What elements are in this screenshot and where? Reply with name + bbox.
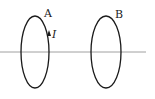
- current-label: I: [51, 28, 57, 41]
- current-arrow-icon: [47, 30, 51, 36]
- loop-a-label: A: [43, 7, 53, 20]
- coaxial-loops-diagram: A B I: [0, 0, 155, 99]
- loop-b-label: B: [115, 8, 123, 21]
